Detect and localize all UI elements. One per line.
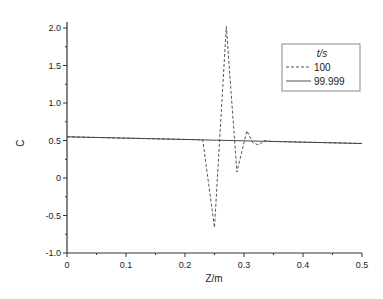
x-axis-title: Z/m: [205, 273, 222, 284]
series-line-99-999: [67, 137, 362, 144]
legend-entry-label: 100: [314, 62, 331, 73]
y-tick-label: -0.5: [45, 211, 61, 221]
y-tick-label: 0.5: [48, 136, 61, 146]
x-tick-label: 0.3: [238, 260, 251, 270]
x-tick-label: 0.4: [297, 260, 310, 270]
x-axis-ticks: 00.10.20.30.40.5: [64, 253, 368, 270]
y-tick-label: 1.0: [48, 98, 61, 108]
chart: -1.0-0.500.51.01.52.0 00.10.20.30.40.5 Z…: [0, 0, 383, 299]
x-tick-label: 0: [64, 260, 69, 270]
y-tick-label: -1.0: [45, 248, 61, 258]
legend-title: t/s: [317, 48, 328, 59]
legend-entry-label: 99.999: [314, 76, 345, 87]
x-tick-label: 0.1: [120, 260, 133, 270]
x-tick-label: 0.2: [179, 260, 192, 270]
y-axis-title: C: [15, 139, 26, 146]
y-tick-label: 1.5: [48, 61, 61, 71]
y-axis-ticks: -1.0-0.500.51.01.52.0: [45, 23, 67, 258]
legend: t/s10099.999: [282, 44, 360, 91]
y-tick-label: 0: [56, 173, 61, 183]
x-tick-label: 0.5: [356, 260, 369, 270]
y-tick-label: 2.0: [48, 23, 61, 33]
